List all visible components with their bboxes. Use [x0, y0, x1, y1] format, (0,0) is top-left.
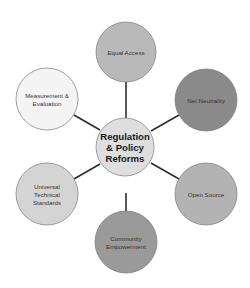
node-label-line: Technical	[34, 191, 60, 198]
node-label-line: Open Source	[188, 191, 225, 198]
node-open-source: Open Source	[175, 163, 237, 225]
connector-line-net-neutrality	[151, 115, 179, 131]
node-label-line: Reforms	[106, 153, 145, 164]
center-node: Regulation& PolicyReforms	[96, 118, 154, 176]
node-label-line: & Policy	[106, 142, 145, 153]
node-label-line: Evaluation	[33, 100, 62, 107]
connector-line-measurement-evaluation	[74, 115, 100, 130]
node-net-neutrality: Net Neutrality	[175, 69, 237, 131]
node-label-line: Regulation	[100, 131, 150, 142]
node-measurement-evaluation: Measurement &Evaluation	[16, 68, 78, 130]
node-universal-technical-standards: UniversalTechnicalStandards	[16, 163, 78, 225]
node-label-line: Empowerment	[106, 243, 146, 250]
node-label-line: Community	[110, 235, 142, 242]
node-equal-access: Equal Access	[96, 22, 156, 82]
node-label-line: Standards	[33, 199, 61, 206]
node-label-line: Net Neutrality	[187, 97, 225, 104]
hub-spoke-diagram: Equal AccessNet NeutralityOpen SourceCom…	[0, 0, 250, 288]
node-community-empowerment: CommunityEmpowerment	[95, 211, 157, 273]
node-label-line: Universal	[34, 183, 60, 190]
node-label-line: Equal Access	[107, 49, 144, 56]
connector-line-open-source	[151, 163, 179, 179]
node-label-line: Measurement &	[25, 92, 70, 99]
connector-line-universal-technical-standards	[74, 164, 100, 179]
